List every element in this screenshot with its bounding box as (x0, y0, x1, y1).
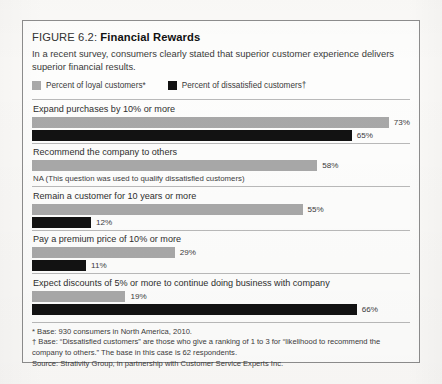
bar-loyal (32, 204, 303, 215)
bar-group-label: Recommend the company to others (32, 145, 410, 160)
footnotes: * Base: 930 consumers in North America, … (32, 322, 410, 369)
bar-row-dissatisfied: 11% (32, 260, 410, 271)
footnote-base-dissatisfied-line1: † Base: “Dissatisfied customers” are tho… (32, 337, 410, 347)
bar-na-note: NA (This question was used to qualify di… (32, 173, 410, 186)
legend-item-dissatisfied: Percent of dissatisfied customers† (168, 81, 307, 90)
bar-group: Pay a premium price of 10% or more29%11% (32, 230, 410, 272)
footnote-base-loyal: * Base: 930 consumers in North America, … (32, 327, 410, 337)
bar-loyal (32, 117, 389, 128)
figure-name: Financial Rewards (100, 31, 200, 43)
bar-row-dissatisfied: 66% (32, 304, 410, 315)
bar-group-label: Expand purchases by 10% or more (32, 102, 410, 117)
legend-item-loyal: Percent of loyal customers* (32, 81, 146, 90)
footnote-source: Source: Strativity Group, in partnership… (32, 359, 410, 369)
bar-row-loyal: 58% (32, 160, 410, 171)
legend-swatch-dissatisfied-icon (168, 81, 177, 90)
figure-title: FIGURE 6.2: Financial Rewards (32, 31, 410, 43)
bar-loyal (32, 160, 317, 171)
bar-group-label: Pay a premium price of 10% or more (32, 232, 410, 247)
bar-group: Expect discounts of 5% or more to contin… (32, 273, 410, 315)
bar-value-loyal: 19% (130, 292, 146, 301)
page-background: FIGURE 6.2: Financial Rewards In a recen… (0, 0, 442, 384)
bar-dissatisfied (32, 260, 86, 271)
bar-value-loyal: 73% (394, 118, 410, 127)
legend-swatch-loyal-icon (32, 81, 41, 90)
bar-group: Recommend the company to others58%NA (Th… (32, 143, 410, 187)
bar-value-dissatisfied: 11% (91, 261, 107, 270)
bar-dissatisfied (32, 304, 357, 315)
bar-value-loyal: 29% (180, 248, 196, 257)
bar-group-label: Remain a customer for 10 years or more (32, 189, 410, 204)
bar-row-loyal: 19% (32, 291, 410, 302)
chart-legend: Percent of loyal customers* Percent of d… (32, 81, 410, 90)
bar-value-loyal: 58% (322, 161, 338, 170)
legend-label-dissatisfied: Percent of dissatisfied customers† (182, 81, 307, 90)
bar-value-dissatisfied: 66% (362, 305, 378, 314)
bar-chart: Expand purchases by 10% or more73%65%Rec… (32, 99, 410, 315)
bar-group-label: Expect discounts of 5% or more to contin… (32, 276, 410, 291)
figure-description: In a recent survey, consumers clearly st… (32, 48, 404, 73)
bar-row-loyal: 73% (32, 117, 410, 128)
bar-row-loyal: 55% (32, 204, 410, 215)
legend-label-loyal: Percent of loyal customers* (46, 81, 146, 90)
bar-value-dissatisfied: 65% (357, 131, 373, 140)
bar-loyal (32, 291, 125, 302)
figure-number: FIGURE 6.2: (32, 31, 97, 43)
bar-row-dissatisfied: 65% (32, 130, 410, 141)
footnote-base-dissatisfied-line2: company to others.” The base in this cas… (32, 348, 410, 358)
figure-container: FIGURE 6.2: Financial Rewards In a recen… (22, 20, 420, 363)
bar-row-loyal: 29% (32, 247, 410, 258)
bar-dissatisfied (32, 217, 91, 228)
bar-value-loyal: 55% (308, 205, 324, 214)
bar-row-dissatisfied: 12% (32, 217, 410, 228)
bar-value-dissatisfied: 12% (96, 218, 112, 227)
bar-loyal (32, 247, 175, 258)
bar-group: Expand purchases by 10% or more73%65% (32, 99, 410, 141)
bar-dissatisfied (32, 130, 352, 141)
bar-group: Remain a customer for 10 years or more55… (32, 186, 410, 228)
